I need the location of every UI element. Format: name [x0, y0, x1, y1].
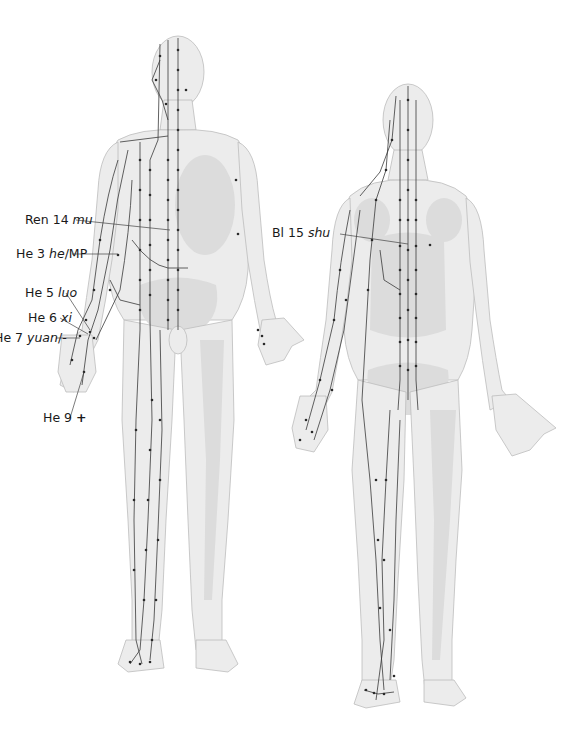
label-he7: He 7 yuan/- — [0, 331, 67, 345]
label-code: He 6 — [28, 310, 57, 325]
label-name: xi — [61, 310, 72, 325]
label-code: He 9 — [43, 410, 72, 425]
label-suffix: /MP — [65, 246, 88, 261]
label-code: He 5 — [25, 285, 54, 300]
label-he5: He 5 luo — [25, 286, 77, 300]
label-bl15: Bl 15 shu — [272, 226, 330, 240]
label-code: He 3 — [16, 246, 45, 261]
label-name: yuan — [27, 330, 58, 345]
label-suffix: /- — [58, 330, 67, 345]
label-he9: He 9 + — [43, 411, 87, 425]
label-code: Ren 14 — [25, 212, 69, 227]
label-name: mu — [73, 212, 93, 227]
body-figures: .body{fill:#ececec;stroke:#bdbdbd;stroke… — [0, 0, 587, 729]
back-figure — [292, 84, 556, 708]
label-name: luo — [58, 285, 77, 300]
label-name: he — [49, 246, 65, 261]
label-he3: He 3 he/MP — [16, 247, 87, 261]
label-he6: He 6 xi — [28, 311, 72, 325]
label-name: shu — [308, 225, 330, 240]
label-code: He 7 — [0, 330, 23, 345]
label-code: Bl 15 — [272, 225, 304, 240]
label-suffix: + — [76, 410, 86, 425]
label-ren14: Ren 14 mu — [25, 213, 93, 227]
front-figure — [58, 36, 304, 672]
acupuncture-diagram: .body{fill:#ececec;stroke:#bdbdbd;stroke… — [0, 0, 587, 729]
